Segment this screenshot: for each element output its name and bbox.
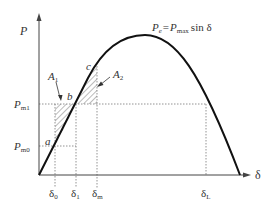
a2-pointer-arrow-icon xyxy=(97,82,104,88)
pm1-label: Pm1 xyxy=(13,98,30,112)
point-a-label: a xyxy=(45,135,51,147)
delta1-label: δ1 xyxy=(71,187,80,201)
point-b-label: b xyxy=(67,90,73,102)
area-a2-label: A2 xyxy=(112,68,124,82)
deltam-label: δm xyxy=(92,187,103,201)
equation-label: Pe=Pmaxsin δ xyxy=(151,21,212,35)
deltaL-label: δL xyxy=(201,187,210,201)
point-c-label: c xyxy=(86,60,91,72)
a1-pointer-arrow-icon xyxy=(58,95,63,101)
area-a1-label: A1 xyxy=(47,70,59,84)
x-axis-arrow-icon xyxy=(243,173,251,178)
area-a1-hatch xyxy=(55,104,76,146)
pm0-label: Pm0 xyxy=(13,140,30,154)
y-axis-label: P xyxy=(19,24,28,38)
delta0-label: δ0 xyxy=(49,187,58,201)
y-axis-arrow-icon xyxy=(37,13,42,21)
x-axis-label: δ xyxy=(255,168,261,182)
power-angle-diagram: P δ Pe=Pmaxsin δ Pm1 Pm0 δ0 δ1 δm δL a b… xyxy=(0,0,273,213)
